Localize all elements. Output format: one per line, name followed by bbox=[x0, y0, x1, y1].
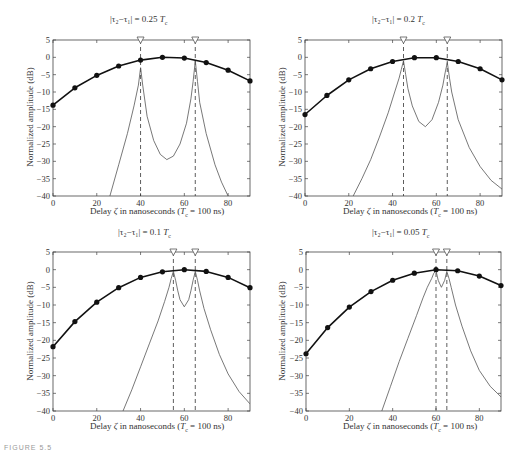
subplot-bottom-right: |τ₂−τ₁| = 0.05 Tc 50−5−10−15−20−25−30−35… bbox=[0, 0, 523, 455]
y-tick-label: −5 bbox=[294, 282, 303, 292]
data-point-dot bbox=[455, 268, 460, 273]
plot-area: 50−5−10−15−20−25−30−35−40020406080 bbox=[0, 0, 523, 455]
y-tick-label: −40 bbox=[290, 406, 303, 416]
data-point-dot bbox=[347, 305, 352, 310]
figure-caption-label: FIGURE 5.5 bbox=[4, 444, 52, 451]
y-tick-label: 0 bbox=[299, 265, 303, 275]
data-point-dot bbox=[325, 325, 330, 330]
x-tick-label: 0 bbox=[304, 413, 308, 423]
axes-frame bbox=[306, 252, 501, 411]
data-point-dot bbox=[390, 278, 395, 283]
xlabel-text: = 100 ns) bbox=[441, 421, 477, 431]
data-point-dot bbox=[433, 267, 438, 272]
data-point-dot bbox=[412, 271, 417, 276]
xlabel-text: Delay bbox=[343, 421, 367, 431]
y-tick-label: −25 bbox=[290, 353, 303, 363]
data-point-dot bbox=[303, 351, 308, 356]
x-axis-label: Delay ζ in nanoseconds (Tc = 100 ns) bbox=[343, 421, 477, 433]
y-tick-label: −10 bbox=[290, 300, 303, 310]
y-tick-label: −35 bbox=[290, 388, 303, 398]
y-tick-label: −20 bbox=[290, 335, 303, 345]
data-point-dot bbox=[368, 289, 373, 294]
y-tick-label: −15 bbox=[290, 318, 303, 328]
y-tick-label: 5 bbox=[299, 247, 303, 257]
data-point-dot bbox=[477, 273, 482, 278]
estimated-curve bbox=[306, 270, 501, 354]
y-axis-label: Normalized amplitude (dB) bbox=[277, 261, 287, 401]
y-tick-label: −30 bbox=[290, 371, 303, 381]
two-path-spectrum-curve bbox=[382, 271, 501, 411]
data-point-dot bbox=[498, 283, 503, 288]
xlabel-text: in nanoseconds ( bbox=[370, 421, 433, 431]
